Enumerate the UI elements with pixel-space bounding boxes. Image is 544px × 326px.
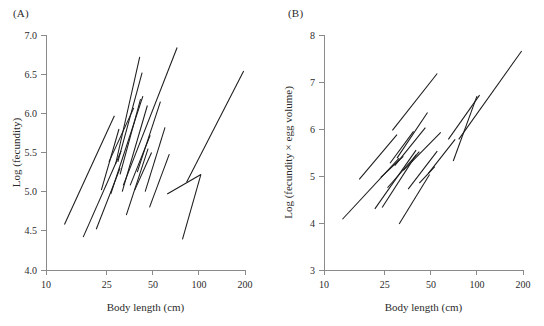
y-tick-label: 4	[310, 218, 315, 229]
regression-line	[150, 154, 170, 207]
y-tick-label: 8	[310, 30, 315, 41]
y-tick-label: 6.0	[25, 108, 38, 119]
y-tick-label: 4.0	[25, 265, 38, 276]
x-tick-label: 200	[238, 279, 253, 290]
y-tick-label: 5.0	[25, 186, 38, 197]
regression-line	[182, 174, 200, 239]
regression-line	[392, 74, 437, 131]
x-axis-title: Body length (cm)	[385, 301, 463, 314]
x-tick-label: 50	[426, 279, 436, 290]
y-tick-label: 3	[310, 265, 315, 276]
regression-line	[137, 102, 160, 172]
y-tick-label: 7.0	[25, 30, 38, 41]
y-tick-label: 6.5	[25, 69, 38, 80]
figure-container: (A) 1025501002004.04.55.05.56.06.57.0Bod…	[0, 0, 544, 326]
x-axis-title: Body length (cm)	[107, 301, 185, 314]
regression-line	[395, 128, 426, 166]
panel-a-plot: 1025501002004.04.55.05.56.06.57.0Body le…	[0, 0, 272, 326]
y-tick-label: 5.5	[25, 147, 38, 158]
regression-line	[118, 73, 142, 162]
regression-line	[187, 71, 244, 182]
panel-b-plot: 102550100200345678Body length (cm)Log (f…	[272, 0, 544, 326]
regression-line	[375, 150, 416, 209]
panel-a: (A) 1025501002004.04.55.05.56.06.57.0Bod…	[0, 0, 272, 326]
x-tick-label: 10	[319, 279, 329, 290]
y-tick-label: 5	[310, 171, 315, 182]
panel-b: (B) 102550100200345678Body length (cm)Lo…	[272, 0, 544, 326]
x-tick-label: 100	[191, 279, 206, 290]
regression-line	[453, 96, 477, 161]
x-tick-label: 50	[148, 279, 158, 290]
x-tick-label: 100	[469, 279, 484, 290]
regression-line	[399, 175, 429, 224]
regression-line	[123, 48, 177, 186]
y-tick-label: 4.5	[25, 225, 38, 236]
y-tick-label: 6	[310, 124, 315, 135]
regression-line	[126, 149, 148, 216]
regression-line	[428, 139, 455, 173]
x-tick-label: 25	[380, 279, 390, 290]
x-tick-label: 25	[102, 279, 112, 290]
x-tick-label: 200	[516, 279, 531, 290]
regression-line	[359, 135, 397, 180]
x-tick-label: 10	[41, 279, 51, 290]
regression-line	[342, 158, 399, 219]
y-axis-title: Log (fecundity × egg volume)	[282, 86, 295, 219]
y-axis-title: Log (fecundity)	[10, 117, 23, 187]
y-tick-label: 7	[310, 77, 315, 88]
regression-line	[459, 51, 522, 139]
regression-line	[408, 151, 437, 189]
